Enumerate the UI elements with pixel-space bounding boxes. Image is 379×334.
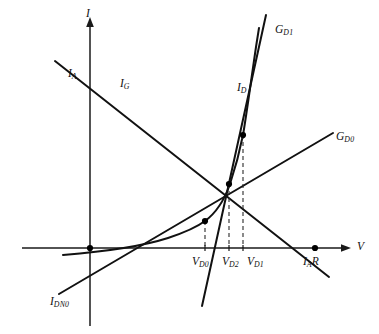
i-d-diode-curve [63, 28, 259, 255]
figure-canvas [0, 0, 379, 334]
i-d-curve-path [63, 28, 259, 255]
voltage-axis-arrowhead [341, 244, 351, 252]
v-d2-tick-label: VD2 [222, 256, 239, 268]
i-a-r-intercept-label: IAR [303, 256, 319, 268]
point-d0-dot [202, 218, 208, 224]
operating-point-dots [87, 132, 318, 251]
i-d-curve-label: ID [237, 82, 247, 94]
v-d0-tick-label: VD0 [192, 256, 209, 268]
dashed-drop-lines [205, 135, 243, 248]
i-g-line-segment [55, 61, 329, 277]
i-a-intercept-label: IA [68, 68, 77, 80]
g-d0-line-segment [59, 133, 333, 294]
i-dn0-intercept-label: IDN0 [50, 296, 69, 308]
origin-point-dot [87, 245, 93, 251]
axes-group [22, 17, 351, 326]
g-d1-curve-label: GD1 [275, 24, 293, 36]
point-d2-dot [226, 181, 232, 187]
diode-load-line-figure: I V IG GD0 GD1 ID IA IDN0 IAR VD0 VD2 VD… [0, 0, 379, 334]
i-g-curve-label: IG [120, 78, 130, 90]
point-iar-dot [312, 245, 318, 251]
point-d1-dot [240, 132, 246, 138]
voltage-axis-label: V [357, 241, 364, 253]
g-d0-curve-label: GD0 [336, 131, 354, 143]
i-g-load-line [55, 61, 329, 277]
current-axis-label: I [86, 8, 90, 20]
g-d0-line [59, 133, 333, 294]
v-d1-tick-label: VD1 [247, 256, 264, 268]
